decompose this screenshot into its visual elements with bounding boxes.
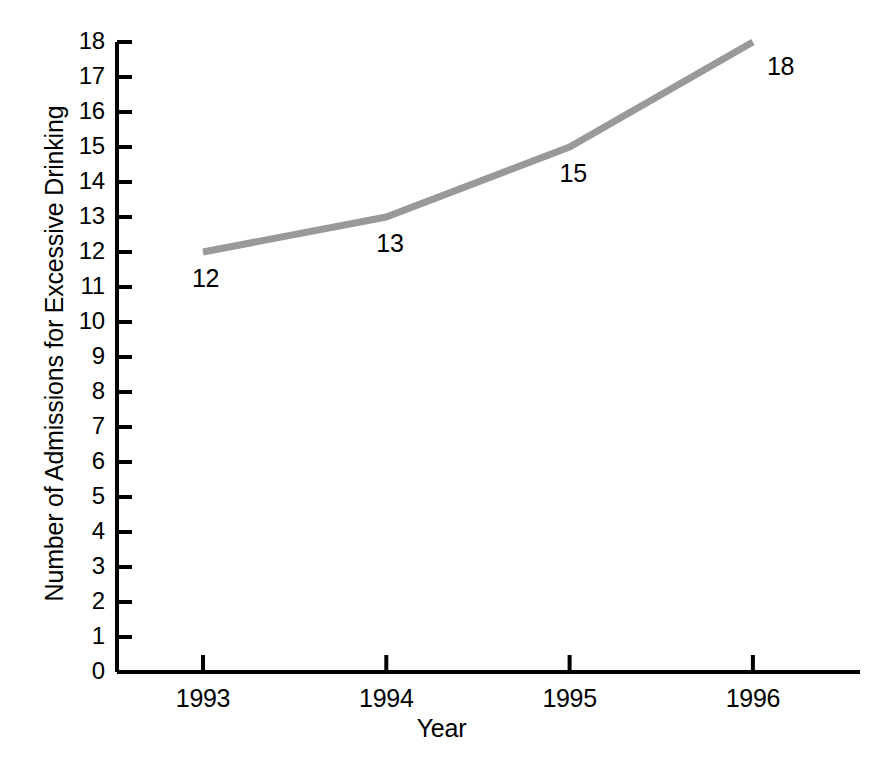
x-axis-title: Year (0, 716, 883, 741)
line-chart-canvas (0, 0, 883, 762)
y-axis-title: Number of Admissions for Excessive Drink… (42, 34, 67, 674)
data-point-value-label: 18 (767, 54, 794, 79)
x-axis-tick-label: 1994 (331, 686, 441, 711)
x-axis-tick-label: 1996 (698, 686, 808, 711)
data-point-value-label: 12 (192, 266, 219, 291)
data-point-value-label: 13 (376, 231, 403, 256)
y-axis-ticks (117, 42, 132, 637)
x-axis-ticks (203, 655, 753, 672)
data-point-value-label: 15 (560, 161, 587, 186)
x-axis-tick-label: 1995 (515, 686, 625, 711)
chart-container: 0123456789101112131415161718 19931994199… (0, 0, 883, 762)
data-series-line (203, 42, 753, 252)
x-axis-tick-label: 1993 (148, 686, 258, 711)
axes-group (117, 42, 860, 672)
